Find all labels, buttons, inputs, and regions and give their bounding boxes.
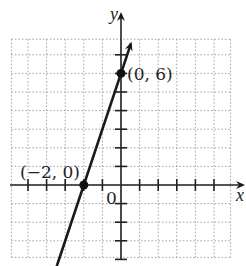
x-axis-label: x <box>235 185 244 205</box>
point-label-x-intercept: (−2, 0) <box>20 162 80 182</box>
coordinate-plane: y x 0 (0, 6) (−2, 0) <box>0 0 246 266</box>
y-axis-label: y <box>108 4 118 24</box>
point-marker <box>79 181 88 190</box>
point-label-y-intercept: (0, 6) <box>127 64 173 84</box>
axes <box>10 14 243 260</box>
point-marker <box>117 69 126 78</box>
origin-label: 0 <box>106 188 117 208</box>
